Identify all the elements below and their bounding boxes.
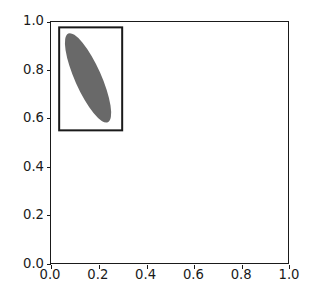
y-tick-label: 0.4 (23, 160, 44, 173)
x-tick-label: 1.0 (279, 268, 300, 281)
y-axis-tick-labels: 0.0 0.2 0.4 0.6 0.8 1.0 (0, 0, 44, 304)
x-tick-label: 0.4 (135, 268, 156, 281)
plot-artists-layer (51, 22, 290, 265)
artist-canvas (51, 22, 290, 265)
y-tick-label: 1.0 (23, 14, 44, 27)
x-tick-mark (194, 265, 195, 269)
y-tick-label: 0.6 (23, 112, 44, 125)
x-tick-mark (242, 265, 243, 269)
x-tick-label: 0.6 (183, 268, 204, 281)
x-tick-label: 0.0 (40, 268, 61, 281)
x-tick-mark (51, 265, 52, 269)
y-tick-label: 0.8 (23, 63, 44, 76)
x-tick-mark (289, 265, 290, 269)
matplotlib-figure: 0.0 0.2 0.4 0.6 0.8 1.0 0.0 0.2 0.4 0.6 … (0, 0, 311, 304)
x-tick-mark (147, 265, 148, 269)
x-tick-mark (99, 265, 100, 269)
ellipse-patch (56, 28, 120, 127)
plot-axes (50, 21, 289, 264)
x-tick-label: 0.8 (231, 268, 252, 281)
x-tick-label: 0.2 (87, 268, 108, 281)
y-tick-label: 0.2 (23, 209, 44, 222)
